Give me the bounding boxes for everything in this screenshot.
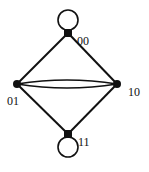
- node-10: [113, 80, 121, 88]
- state-graph: 00 01 10 11: [0, 0, 149, 172]
- self-loop-00: [58, 10, 78, 30]
- edge-01-10-upper: [17, 80, 117, 84]
- edge-10-11: [68, 84, 117, 134]
- node-00: [64, 29, 72, 37]
- edge-01-11: [17, 84, 68, 134]
- node-label-11: 11: [78, 135, 90, 149]
- node-label-01: 01: [7, 94, 19, 108]
- edge-00-01: [17, 33, 68, 84]
- node-11: [64, 130, 72, 138]
- node-label-00: 00: [77, 34, 89, 48]
- node-01: [13, 80, 21, 88]
- node-label-10: 10: [128, 85, 140, 99]
- edge-00-10: [68, 33, 117, 84]
- self-loop-11: [58, 137, 78, 157]
- edge-01-10-lower: [17, 84, 117, 88]
